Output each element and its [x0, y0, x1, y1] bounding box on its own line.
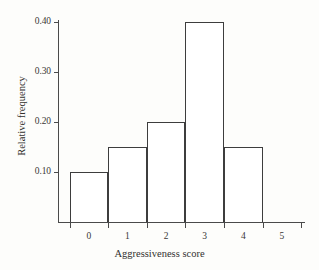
- histogram-bar: [147, 122, 186, 222]
- y-tick-mark: [54, 72, 59, 73]
- histogram-figure: 0.100.200.300.40 012345 Aggressiveness s…: [0, 0, 319, 270]
- x-tick-label: 1: [117, 231, 137, 241]
- x-axis-line: [58, 222, 305, 223]
- x-axis-title: Aggressiveness score: [0, 248, 319, 260]
- x-tick-label: 4: [233, 231, 253, 241]
- y-tick-mark: [54, 22, 59, 23]
- x-tick-mark: [185, 223, 186, 228]
- y-axis-title: Relative frequency: [16, 36, 28, 196]
- histogram-bar: [185, 22, 224, 222]
- histogram-bar: [224, 147, 263, 222]
- x-tick-label: 5: [272, 231, 292, 241]
- x-tick-mark: [108, 223, 109, 228]
- x-tick-mark: [263, 223, 264, 228]
- y-tick-mark: [54, 172, 59, 173]
- x-tick-mark: [224, 223, 225, 228]
- y-tick-label: 0.40: [11, 17, 51, 27]
- histogram-bar: [70, 172, 109, 222]
- histogram-bar: [108, 147, 147, 222]
- x-tick-label: 3: [195, 231, 215, 241]
- x-tick-mark: [147, 223, 148, 228]
- x-tick-label: 0: [79, 231, 99, 241]
- x-tick-mark: [70, 223, 71, 228]
- y-tick-mark: [54, 122, 59, 123]
- x-tick-mark: [301, 223, 302, 228]
- x-tick-label: 2: [156, 231, 176, 241]
